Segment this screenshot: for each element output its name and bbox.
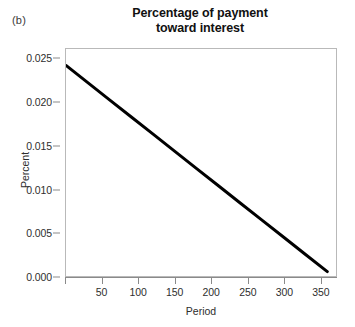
- y-tick-label: 0.005: [26, 227, 52, 239]
- chart-title-line-2: toward interest: [55, 21, 345, 36]
- x-tick-mark: [175, 278, 176, 284]
- y-tick-mark: [53, 233, 60, 234]
- x-tick-mark: [102, 278, 103, 284]
- x-axis-title: Period: [65, 305, 337, 317]
- x-tick-label: 300: [276, 286, 293, 298]
- x-tick-mark: [248, 278, 249, 284]
- y-tick-label: 0.000: [26, 271, 52, 283]
- plot-area: [65, 48, 337, 277]
- x-tick-label: 200: [203, 286, 220, 298]
- x-tick-label: 150: [166, 286, 183, 298]
- x-tick-mark: [138, 278, 139, 284]
- y-tick-label: 0.025: [26, 52, 52, 64]
- chart-title-line-1: Percentage of payment: [55, 6, 345, 21]
- x-tick-label: 250: [239, 286, 256, 298]
- y-tick-mark: [53, 102, 60, 103]
- y-tick-mark: [53, 145, 60, 146]
- y-tick-label: 0.020: [26, 96, 52, 108]
- x-axis-line: [65, 277, 337, 278]
- x-tick-label: 350: [312, 286, 329, 298]
- data-series-line: [66, 65, 327, 271]
- x-tick-label: 50: [96, 286, 107, 298]
- plot-canvas: [66, 49, 336, 276]
- y-tick-mark: [53, 277, 60, 278]
- y-tick-label: 0.015: [26, 140, 52, 152]
- x-tick-mark: [321, 278, 322, 284]
- chart-figure: (b) Percentage of payment toward interes…: [0, 0, 355, 327]
- y-tick-mark: [53, 189, 60, 190]
- chart-title: Percentage of payment toward interest: [55, 6, 345, 36]
- x-tick-label: 100: [129, 286, 146, 298]
- y-axis-title: Percent: [19, 152, 31, 188]
- y-axis: 0.0000.0050.0100.0150.0200.025: [0, 0, 65, 327]
- x-tick-mark: [284, 278, 285, 284]
- x-tick-mark: [65, 278, 66, 284]
- y-tick-mark: [53, 58, 60, 59]
- x-tick-mark: [211, 278, 212, 284]
